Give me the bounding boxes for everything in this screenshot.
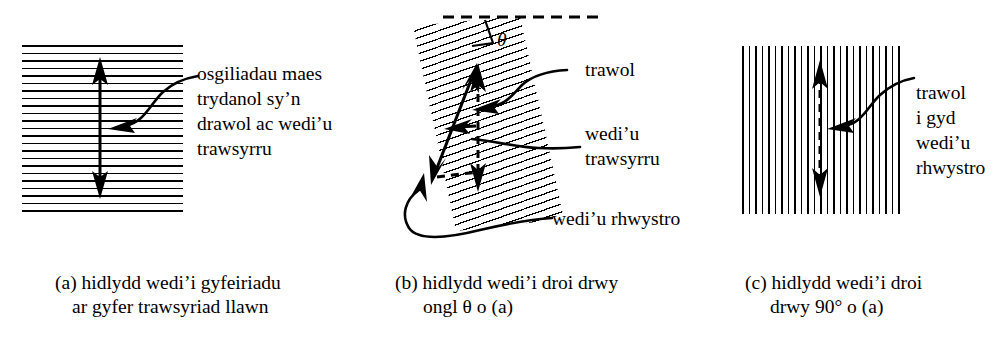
panel-a-caption-line-2: ar gyfer trawsyriad llawn	[72, 296, 269, 317]
panel-c-caption-line-2: drwy 90° o (a)	[770, 296, 883, 318]
panel-b-labels: trawol wedi’u trawsyrru wedi’u rhwystro	[552, 59, 680, 229]
panel-b-caption-line-2-part-3: o (a)	[472, 296, 513, 318]
panel-b: θ	[395, 0, 680, 318]
panel-c-label-line-1: trawol	[916, 82, 966, 103]
panel-a-label-line-4: trawsyrru	[197, 138, 272, 159]
panel-b-incident-leader	[472, 70, 567, 114]
panel-c-label-line-3: wedi’u	[916, 132, 970, 153]
panel-a-annotation-label: osgiliadau maes trydanol sy’n drawol ac …	[197, 63, 333, 159]
panel-c: trawol i gyd wedi’u rhwystro (c) hidlydd…	[743, 46, 985, 318]
panel-c-label-line-4: rhwystro	[916, 157, 985, 178]
panel-b-blocked-label: wedi’u rhwystro	[552, 208, 680, 229]
panel-b-caption-line-2-part-1: ongl	[423, 296, 463, 317]
polarisation-filter-figure: osgiliadau maes trydanol sy’n drawol ac …	[0, 0, 1007, 351]
panel-a-leader-line	[108, 76, 198, 133]
panel-a-caption: (a) hidlydd wedi’i gyfeiriadu ar gyfer t…	[55, 272, 281, 317]
panel-b-caption: (b) hidlydd wedi’i droi drwy ongl θ o (a…	[395, 272, 618, 318]
panel-c-label-line-2: i gyd	[916, 107, 956, 128]
panel-a-label-line-3-part-1: drawol	[197, 113, 256, 134]
panel-a-label-line-3-part-3: wedi’u	[273, 113, 332, 134]
panel-b-caption-theta: θ	[463, 296, 472, 317]
panel-a: osgiliadau maes trydanol sy’n drawol ac …	[22, 46, 333, 317]
panel-a-label-line-3: drawol ac wedi’u	[197, 113, 333, 134]
panel-b-transmitted-label-line-2: trawsyrru	[585, 148, 660, 169]
panel-b-transmitted-label-line-1: wedi’u	[585, 123, 639, 144]
panel-c-caption: (c) hidlydd wedi’i droi drwy 90° o (a)	[745, 272, 923, 318]
panel-c-caption-line-1: (c) hidlydd wedi’i droi	[745, 272, 923, 294]
panel-a-label-line-3-italic: ac	[256, 113, 274, 134]
panel-c-annotation-label: trawol i gyd wedi’u rhwystro	[916, 82, 985, 178]
panel-a-label-line-1: osgiliadau maes	[197, 63, 322, 84]
panel-b-caption-line-1: (b) hidlydd wedi’i droi drwy	[395, 272, 618, 294]
panel-b-incident-label: trawol	[585, 59, 635, 80]
panel-a-label-line-2: trydanol sy’n	[197, 88, 301, 109]
panel-a-caption-line-1: (a) hidlydd wedi’i gyfeiriadu	[55, 272, 281, 294]
panel-b-theta-symbol: θ	[497, 29, 507, 50]
panel-b-caption-line-2: ongl θ o (a)	[423, 296, 513, 318]
figure-canvas: osgiliadau maes trydanol sy’n drawol ac …	[0, 0, 1007, 351]
